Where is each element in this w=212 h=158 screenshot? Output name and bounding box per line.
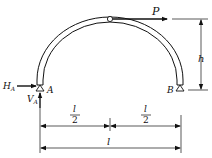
half-span-left-label: l 2 (70, 104, 80, 125)
arch-diagram: P h A B HA VA l 2 l 2 l (0, 0, 212, 158)
crown-hinge (107, 16, 112, 21)
arch (37, 17, 183, 85)
load-label: P (151, 5, 160, 18)
support-b-pin-icon (176, 85, 184, 91)
half-span-right-label: l 2 (141, 104, 151, 125)
svg-text:2: 2 (72, 115, 78, 125)
support-a-label: A (46, 85, 54, 95)
span-label: l (107, 136, 110, 147)
span-extension-lines (40, 108, 181, 153)
svg-text:l: l (73, 104, 76, 114)
reaction-h-label: HA (2, 81, 16, 92)
svg-text:l: l (144, 104, 147, 114)
svg-text:2: 2 (143, 115, 149, 125)
support-b-label: B (166, 85, 174, 95)
height-label: h (198, 53, 204, 64)
support-a-pin-icon (36, 85, 44, 91)
reaction-v-label: VA (27, 94, 39, 105)
